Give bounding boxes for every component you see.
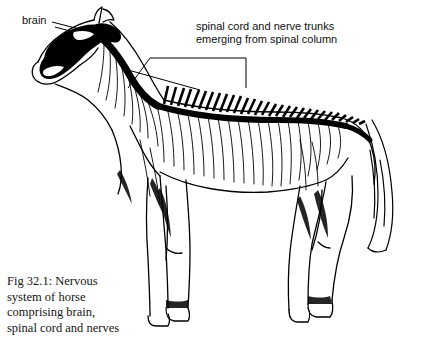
knee-detail — [166, 248, 182, 253]
hind-leg-off-front — [288, 186, 300, 310]
horse-chest — [112, 130, 121, 194]
spinal-cord-neck — [96, 34, 158, 106]
spinal-cord-annotation-label: spinal cord and nerve trunks emerging fr… — [196, 20, 337, 46]
spinal-cord — [96, 34, 370, 140]
figure-caption: Fig 32.1: Nervous system of horse compri… — [7, 274, 119, 336]
hock-detail — [318, 242, 330, 248]
hind-shading — [314, 190, 328, 238]
stifle-shading — [297, 196, 311, 240]
nerve-fibers — [98, 44, 341, 204]
figure-page: brain spinal cord and nerve trunks emerg… — [0, 0, 428, 348]
hoof-shading-1 — [166, 300, 188, 308]
front-hoof-off — [148, 314, 170, 326]
tail-tip — [368, 248, 386, 252]
front-leg-near-back — [186, 180, 190, 308]
tail-inner — [366, 124, 378, 248]
tail-strand-2 — [380, 160, 385, 226]
horse-shoulder — [130, 126, 160, 176]
brain-annotation-label: brain — [22, 14, 46, 27]
horse-ear-right — [103, 9, 114, 22]
horse-throat-line — [55, 84, 112, 130]
spinal-cord-sacral — [346, 126, 370, 140]
horse-ear-left — [94, 7, 102, 23]
hind-leg-near-back — [332, 176, 353, 300]
hind-hoof-off — [289, 308, 310, 322]
horse-belly — [160, 172, 326, 192]
brain-and-head-mass — [40, 23, 121, 79]
horse-flank — [326, 158, 348, 180]
chest-shading — [117, 170, 132, 204]
hoof-shading-2 — [308, 296, 332, 304]
front-leg-off-front — [147, 178, 151, 316]
tail-outer — [372, 120, 393, 250]
